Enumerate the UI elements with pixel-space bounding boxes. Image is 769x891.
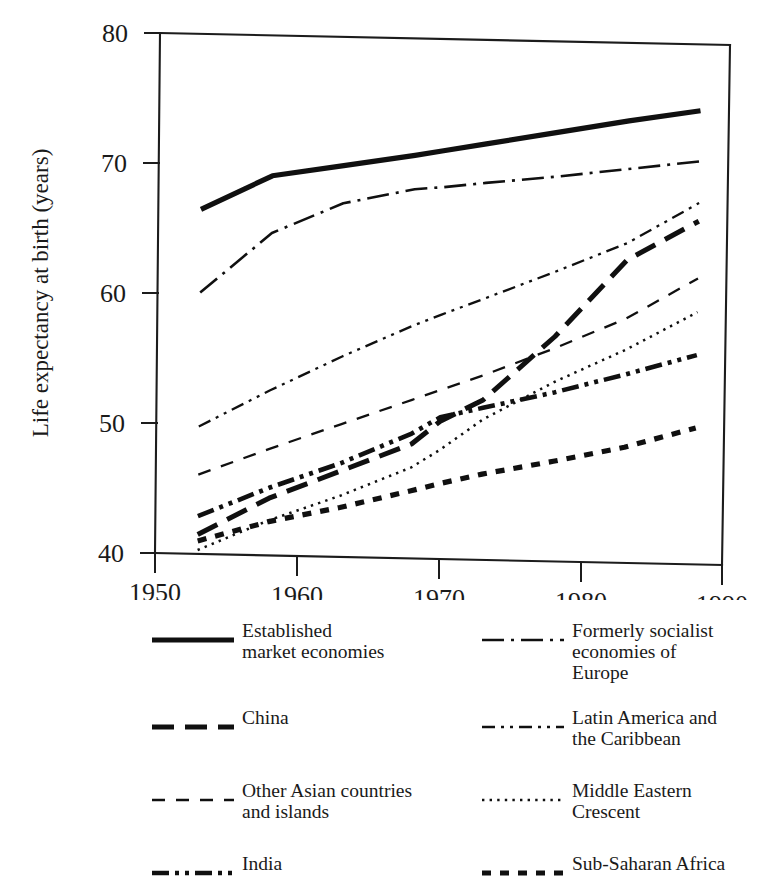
legend-line-sample-middle-eastern-crescent-icon — [480, 780, 566, 820]
legend-line-sample-formerly-socialist-economies-of-europe-icon — [480, 620, 566, 660]
legend-line-sample-established-market-economies-icon — [150, 620, 236, 660]
legend-item-other-asian-countries-and-islands[interactable]: Other Asian countries and islands — [150, 780, 412, 822]
x-tick-label-1980: 1980 — [555, 587, 607, 600]
frame-top — [160, 33, 730, 45]
legend-label-india: India — [236, 853, 282, 874]
series-line-middle-eastern-crescent — [198, 312, 698, 550]
legend-label-latin-america-and-the-caribbean: Latin America and the Caribbean — [566, 707, 717, 749]
x-tick-label-1990: 1990 — [696, 590, 748, 600]
legend-line-sample-china-icon — [150, 707, 236, 747]
legend-label-formerly-socialist-economies-of-europe: Formerly socialist economies of Europe — [566, 620, 713, 683]
x-axis-tick-labels: 1950 1960 1970 1980 1990 — [129, 578, 748, 600]
legend-label-china: China — [236, 707, 289, 728]
y-tick-label-50: 50 — [99, 409, 125, 438]
y-axis-ticks — [140, 33, 161, 553]
legend-line-sample-sub-saharan-africa-icon — [480, 853, 566, 891]
frame-right — [722, 45, 730, 565]
legend-label-sub-saharan-africa: Sub-Saharan Africa — [566, 853, 725, 874]
plot-frame — [155, 33, 730, 565]
legend-label-established-market-economies: Established market economies — [236, 620, 384, 662]
y-axis-title: Life expectancy at birth (years) — [28, 149, 53, 438]
series-line-sub-saharan-africa — [198, 428, 696, 541]
series-line-china — [198, 221, 699, 534]
y-tick-label-60: 60 — [100, 279, 126, 308]
legend-item-formerly-socialist-economies-of-europe[interactable]: Formerly socialist economies of Europe — [480, 620, 713, 683]
legend-item-established-market-economies[interactable]: Established market economies — [150, 620, 384, 662]
legend-line-sample-india-icon — [150, 853, 236, 891]
legend-item-india[interactable]: India — [150, 853, 282, 891]
series-layer — [198, 111, 701, 550]
x-tick-label-1970: 1970 — [413, 584, 465, 600]
series-line-established-market-economies — [201, 111, 701, 210]
legend-label-other-asian-countries-and-islands: Other Asian countries and islands — [236, 780, 412, 822]
x-tick-label-1960: 1960 — [271, 581, 323, 600]
series-line-latin-america-and-the-caribbean — [199, 203, 699, 427]
x-tick-label-1950: 1950 — [129, 578, 181, 600]
legend-item-china[interactable]: China — [150, 707, 289, 747]
legend-label-middle-eastern-crescent: Middle Eastern Crescent — [566, 780, 692, 822]
chart-legend: Established market economiesChinaOther A… — [0, 612, 769, 891]
legend-line-sample-latin-america-and-the-caribbean-icon — [480, 707, 566, 747]
series-line-formerly-socialist-economies-of-europe — [200, 161, 700, 292]
x-axis-ticks — [155, 553, 722, 585]
y-tick-label-40: 40 — [98, 539, 124, 568]
chart-figure: 80 70 60 50 40 Life expectancy at birth … — [0, 0, 769, 891]
legend-item-middle-eastern-crescent[interactable]: Middle Eastern Crescent — [480, 780, 692, 822]
line-chart: 80 70 60 50 40 Life expectancy at birth … — [0, 0, 769, 600]
legend-item-sub-saharan-africa[interactable]: Sub-Saharan Africa — [480, 853, 725, 891]
series-line-india — [198, 355, 697, 516]
y-tick-label-70: 70 — [101, 149, 127, 178]
legend-item-latin-america-and-the-caribbean[interactable]: Latin America and the Caribbean — [480, 707, 717, 749]
legend-line-sample-other-asian-countries-and-islands-icon — [150, 780, 236, 820]
y-tick-label-80: 80 — [102, 19, 128, 48]
y-axis-tick-labels: 80 70 60 50 40 — [98, 19, 128, 568]
